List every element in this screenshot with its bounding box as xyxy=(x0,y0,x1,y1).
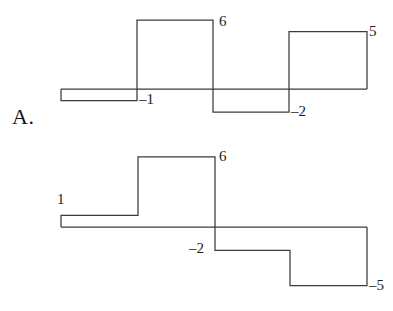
value-label-6: 6 xyxy=(219,14,227,29)
panel-letter-a: A. xyxy=(12,106,34,128)
step-outline-a xyxy=(61,20,367,112)
value-label-5: 5 xyxy=(369,24,377,39)
value-label-neg2: –2 xyxy=(291,104,306,119)
chart-panel-c: C. 16–2–5 xyxy=(0,140,393,311)
value-label-neg5: –5 xyxy=(369,278,384,293)
chart-panel-a: A. 6–1–25 xyxy=(0,0,393,155)
step-plot-a xyxy=(0,0,393,155)
value-label-neg1: –1 xyxy=(139,92,154,107)
step-function-figure: A. 6–1–25 C. 16–2–5 xyxy=(0,0,393,311)
value-label-1: 1 xyxy=(57,192,65,207)
value-label-6: 6 xyxy=(219,149,227,164)
step-outline-c xyxy=(61,157,367,286)
step-plot-c xyxy=(0,140,393,311)
value-label-neg2: –2 xyxy=(189,241,204,256)
